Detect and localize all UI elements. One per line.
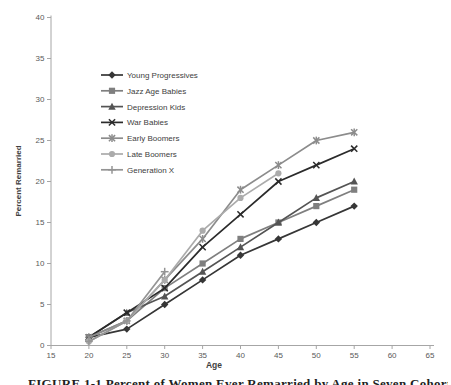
x-tick-label-35: 35 xyxy=(198,351,207,360)
marker-depression-kids xyxy=(351,178,358,185)
y-tick-label-25: 25 xyxy=(36,136,45,145)
marker-depression-kids xyxy=(161,292,168,299)
marker-early-boomers xyxy=(275,161,281,169)
legend-label-young-progressives: Young Progressives xyxy=(127,71,198,80)
marker-late-boomers xyxy=(162,277,168,283)
x-tick-label-50: 50 xyxy=(312,351,321,360)
legend-label-generation-x: Generation X xyxy=(127,166,175,175)
marker-jazz-age-babies xyxy=(237,236,243,242)
y-tick-label-15: 15 xyxy=(36,218,45,227)
y-tick-label-40: 40 xyxy=(36,13,45,22)
remarriage-line-chart: 15202530354045505560650510152025303540Ag… xyxy=(0,0,451,375)
marker-young-progressives xyxy=(351,202,358,209)
series-line-war-babies xyxy=(89,149,354,338)
marker-jazz-age-babies xyxy=(200,260,206,266)
marker-war-babies xyxy=(351,146,357,152)
x-tick-label-55: 55 xyxy=(350,351,359,360)
y-tick-label-35: 35 xyxy=(36,54,45,63)
marker-war-babies xyxy=(313,162,319,168)
legend-label-late-boomers: Late Boomers xyxy=(127,150,177,159)
x-tick-label-45: 45 xyxy=(274,351,283,360)
series-line-late-boomers xyxy=(89,173,279,341)
marker-war-babies xyxy=(200,244,206,250)
x-tick-label-30: 30 xyxy=(160,351,169,360)
x-tick-label-20: 20 xyxy=(84,351,93,360)
y-tick-label-20: 20 xyxy=(36,177,45,186)
legend-label-jazz-age-babies: Jazz Age Babies xyxy=(127,87,186,96)
legend-marker-jazz-age-babies xyxy=(109,88,115,94)
marker-depression-kids xyxy=(199,268,206,275)
legend-label-depression-kids: Depression Kids xyxy=(127,103,185,112)
marker-early-boomers xyxy=(200,235,206,243)
y-tick-label-5: 5 xyxy=(40,300,45,309)
x-tick-label-60: 60 xyxy=(388,351,397,360)
legend-label-war-babies: War Babies xyxy=(127,118,168,127)
y-axis-title: Percent Remarried xyxy=(14,145,23,216)
y-tick-label-0: 0 xyxy=(40,341,45,350)
legend-label-early-boomers: Early Boomers xyxy=(127,134,179,143)
y-tick-label-10: 10 xyxy=(36,259,45,268)
marker-jazz-age-babies xyxy=(351,187,357,193)
marker-early-boomers xyxy=(237,186,243,194)
x-axis-title: Age xyxy=(206,360,222,370)
marker-late-boomers xyxy=(237,195,243,201)
legend-marker-late-boomers xyxy=(109,151,115,157)
marker-jazz-age-babies xyxy=(313,203,319,209)
figure-caption: FIGURE 1-1 Percent of Women Ever Remarri… xyxy=(28,377,448,385)
legend-marker-young-progressives xyxy=(108,71,115,78)
marker-young-progressives xyxy=(313,219,320,226)
legend-marker-generation-x xyxy=(108,166,116,174)
chart-canvas: 15202530354045505560650510152025303540Ag… xyxy=(0,0,451,375)
x-tick-label-65: 65 xyxy=(426,351,435,360)
marker-late-boomers xyxy=(275,170,281,176)
x-tick-label-25: 25 xyxy=(122,351,131,360)
marker-late-boomers xyxy=(200,228,206,234)
x-tick-label-40: 40 xyxy=(236,351,245,360)
marker-war-babies xyxy=(237,211,243,217)
marker-war-babies xyxy=(275,178,281,184)
marker-young-progressives xyxy=(275,235,282,242)
x-tick-label-15: 15 xyxy=(47,351,56,360)
y-tick-label-30: 30 xyxy=(36,95,45,104)
marker-depression-kids xyxy=(237,243,244,250)
